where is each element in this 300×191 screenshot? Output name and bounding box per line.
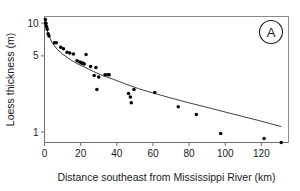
panel-label-badge: A <box>260 21 283 44</box>
data-point <box>95 88 99 92</box>
x-tick-label: 40 <box>111 148 123 159</box>
data-point <box>280 141 284 145</box>
data-point <box>62 47 65 51</box>
data-point <box>45 27 49 31</box>
x-axis-title: Distance southeast from Mississippi Rive… <box>57 171 275 183</box>
data-point <box>94 66 98 70</box>
x-tick-label: 100 <box>217 148 234 159</box>
data-point <box>219 132 223 136</box>
data-point <box>68 51 72 55</box>
data-point <box>107 73 111 77</box>
data-point <box>195 113 199 117</box>
plot-frame <box>45 17 289 143</box>
panel-label-letter: A <box>267 25 276 40</box>
data-point <box>47 34 51 38</box>
data-point <box>83 62 87 66</box>
data-point <box>84 53 88 57</box>
data-point <box>132 88 136 92</box>
data-point <box>177 105 181 109</box>
loess-thickness-scatter-plot: 020406080100120 1510 Distance southeast … <box>0 0 300 191</box>
data-point <box>89 65 93 69</box>
y-tick-label: 10 <box>27 18 39 29</box>
y-axis-ticks: 1510 <box>27 18 44 138</box>
data-point <box>262 137 266 141</box>
fit-curve <box>45 19 281 127</box>
y-tick-label: 1 <box>33 127 39 138</box>
data-point <box>72 52 76 56</box>
data-point <box>97 75 101 79</box>
data-point <box>127 92 131 96</box>
data-points <box>44 18 283 145</box>
y-axis-title: Loess thickness (m) <box>4 33 16 126</box>
data-point <box>92 74 96 78</box>
x-axis-ticks: 020406080100120 <box>42 143 270 159</box>
data-point <box>153 91 157 95</box>
x-tick-label: 20 <box>75 148 87 159</box>
x-tick-label: 120 <box>253 148 270 159</box>
x-tick-label: 0 <box>42 148 48 159</box>
x-tick-label: 80 <box>184 148 196 159</box>
data-point <box>55 41 59 45</box>
data-point <box>44 18 48 22</box>
data-point <box>129 95 133 99</box>
x-tick-label: 60 <box>147 148 159 159</box>
data-point <box>130 101 134 105</box>
figure-panel-a: 020406080100120 1510 Distance southeast … <box>0 0 300 191</box>
y-tick-label: 5 <box>33 50 39 61</box>
